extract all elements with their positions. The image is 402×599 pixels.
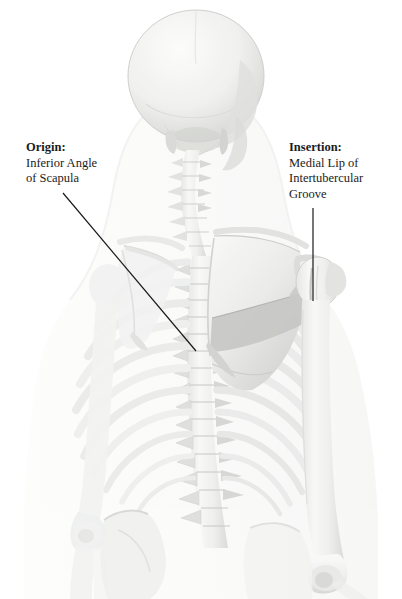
callout-insertion-line-3: Groove — [289, 187, 363, 203]
callout-insertion-line-1: Medial Lip of — [289, 156, 363, 172]
callout-origin-line-2: of Scapula — [26, 171, 97, 187]
anatomy-diagram: Origin: Inferior Angle of Scapula Insert… — [0, 0, 402, 599]
callout-insertion-line-2: Intertubercular — [289, 171, 363, 187]
callout-origin-heading: Origin: — [26, 140, 97, 156]
callout-origin-line-1: Inferior Angle — [26, 156, 97, 172]
skeleton-illustration — [0, 0, 402, 599]
callout-insertion-heading: Insertion: — [289, 140, 363, 156]
callout-origin: Origin: Inferior Angle of Scapula — [26, 140, 97, 187]
callout-insertion: Insertion: Medial Lip of Intertubercular… — [289, 140, 363, 202]
